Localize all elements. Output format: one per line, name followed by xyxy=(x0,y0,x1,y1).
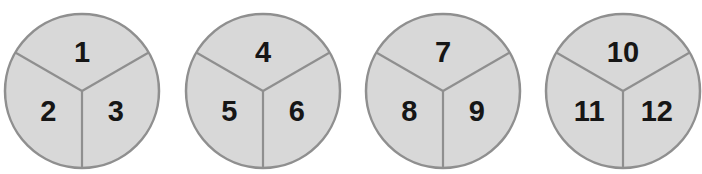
sector-number-label: 1 xyxy=(74,36,90,68)
sector-number-label: 10 xyxy=(607,36,639,68)
sector-number-label: 4 xyxy=(255,36,271,68)
sector-number-label: 5 xyxy=(221,95,237,127)
sector-number-label: 3 xyxy=(108,95,124,127)
sector-number-label: 2 xyxy=(40,95,56,127)
circle-1: 123 xyxy=(5,14,159,168)
sector-number-label: 11 xyxy=(574,95,605,127)
sector-number-label: 8 xyxy=(401,95,417,127)
circle-3: 789 xyxy=(366,14,520,168)
sector-number-label: 12 xyxy=(641,95,673,127)
sector-number-label: 7 xyxy=(435,36,451,68)
divided-circles-figure: 123456789101112 xyxy=(0,0,702,174)
figure-canvas: 123456789101112 xyxy=(0,0,702,174)
sector-number-label: 9 xyxy=(469,95,485,127)
circle-4: 101112 xyxy=(546,14,700,168)
sector-number-label: 6 xyxy=(289,95,305,127)
circle-2: 456 xyxy=(186,14,340,168)
